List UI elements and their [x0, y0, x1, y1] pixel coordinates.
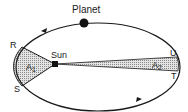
- area-a2-subscript: 2: [158, 64, 162, 71]
- planet-dot: [80, 19, 89, 28]
- kepler-diagram: Planet Sun R S U T A1 A2: [0, 0, 188, 112]
- area-a1-subscript: 1: [32, 66, 36, 73]
- point-t-label: T: [171, 71, 177, 81]
- planet-label: Planet: [72, 4, 101, 15]
- orbit-arrow-top-icon: [41, 28, 47, 33]
- point-s-label: S: [14, 84, 20, 94]
- sun-dot: [52, 61, 58, 67]
- orbit-arrow-bottom-icon: [136, 97, 142, 102]
- point-u-label: U: [170, 48, 177, 58]
- point-r-label: R: [10, 40, 17, 50]
- sun-label: Sun: [51, 50, 67, 60]
